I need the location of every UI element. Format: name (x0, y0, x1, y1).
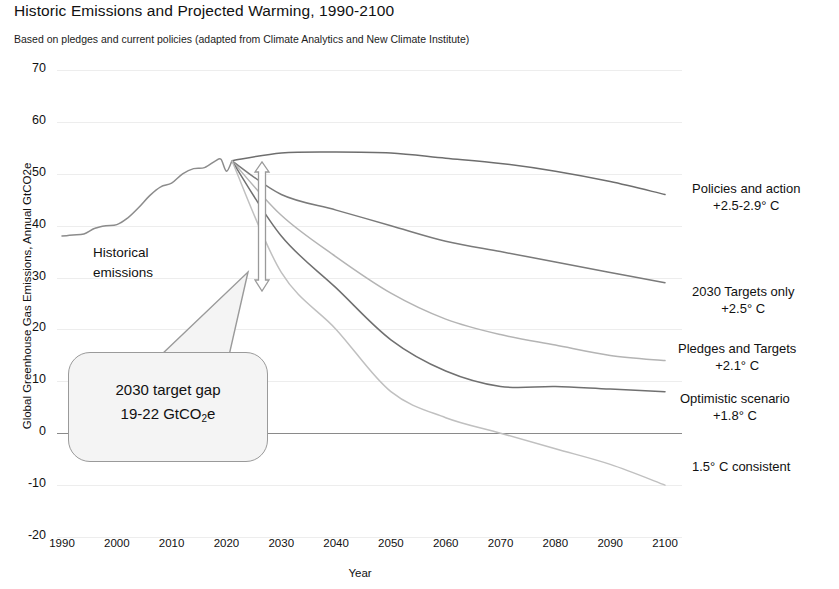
scenario-warming-value: +2.5-2.9° C (692, 197, 800, 214)
series-line (232, 152, 665, 195)
scenario-warming-value: +2.5° C (692, 300, 794, 317)
scenario-warming-value: +1.8° C (680, 407, 790, 424)
target-gap-arrow (255, 162, 269, 291)
emissions-chart: Historic Emissions and Projected Warming… (0, 0, 839, 589)
scenario-label: Policies and action+2.5-2.9° C (692, 180, 800, 214)
historical-emissions-label: Historical emissions (93, 243, 153, 282)
scenario-name: Optimistic scenario (680, 390, 790, 407)
callout-line-1: 2030 target gap (115, 381, 220, 398)
series-line (232, 161, 665, 361)
historical-label-line-2: emissions (93, 265, 153, 280)
callout-line-2-post: e (207, 405, 215, 422)
scenario-name: 1.5° C consistent (692, 458, 790, 475)
callout-line-2-pre: 19-22 GtCO (121, 405, 202, 422)
scenario-label: 2030 Targets only+2.5° C (692, 283, 794, 317)
scenario-label: 1.5° C consistent (692, 458, 790, 475)
scenario-label: Optimistic scenario+1.8° C (680, 390, 790, 424)
historical-label-line-1: Historical (93, 245, 149, 260)
callout-pointer (160, 272, 248, 360)
scenario-warming-value: +2.1° C (678, 357, 796, 374)
series-line (232, 161, 665, 485)
series-line (62, 159, 232, 236)
scenario-name: 2030 Targets only (692, 283, 794, 300)
scenario-name: Policies and action (692, 180, 800, 197)
target-gap-callout-text: 2030 target gap 19-22 GtCO2e (68, 378, 268, 427)
series-line (232, 161, 665, 392)
scenario-label: Pledges and Targets+2.1° C (678, 340, 796, 374)
scenario-name: Pledges and Targets (678, 340, 796, 357)
